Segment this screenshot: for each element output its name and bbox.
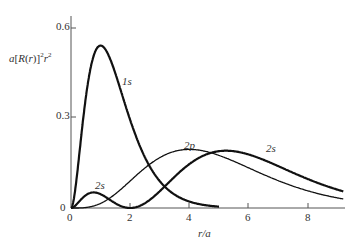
curve-2p <box>71 149 343 208</box>
curve-1s <box>71 46 219 208</box>
y-tick-0.3: 0.3 <box>56 109 70 121</box>
curve-2s <box>71 151 343 208</box>
x-axis-label: r/a <box>198 227 211 239</box>
x-tick-4: 4 <box>186 211 192 223</box>
label-2s-inner: 2s <box>95 179 105 191</box>
label-2s: 2s <box>266 142 276 154</box>
label-1s: 1s <box>122 75 132 87</box>
y-tick-0: 0 <box>60 201 66 213</box>
x-tick-0: 0 <box>67 211 73 223</box>
y-axis-label: a[R(r)]2r2 <box>9 51 51 64</box>
x-tick-2: 2 <box>127 211 133 223</box>
y-tick-0.6: 0.6 <box>56 20 70 32</box>
label-2p: 2p <box>184 139 195 151</box>
x-tick-8: 8 <box>305 211 311 223</box>
x-tick-6: 6 <box>245 211 251 223</box>
plot-area <box>0 0 362 246</box>
